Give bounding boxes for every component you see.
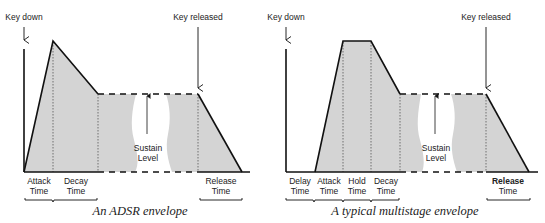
sustain-fill-right xyxy=(451,94,486,172)
time-braces xyxy=(25,198,242,202)
key-down-label: Key down xyxy=(267,12,305,22)
attack-hold-decay-fill xyxy=(315,41,400,172)
sustain-label-line1: Sustain xyxy=(134,143,163,153)
attack-label: Attack xyxy=(27,176,51,186)
svg-text:Time: Time xyxy=(348,186,367,196)
key-released-label: Key released xyxy=(461,12,511,22)
attack-label: Attack xyxy=(317,176,341,186)
release-label: Release xyxy=(205,176,236,186)
adsr-caption: An ADSR envelope xyxy=(92,204,188,218)
decay-label: Decay xyxy=(374,176,399,186)
sustain-label-line1: Sustain xyxy=(422,143,451,153)
sustain-fill-right xyxy=(166,94,198,172)
attack-decay-fill xyxy=(24,41,98,172)
release-label: Release xyxy=(492,176,524,186)
sustain-fill-left xyxy=(400,94,424,172)
decay-label: Decay xyxy=(64,176,89,186)
multistage-caption: A typical multistage envelope xyxy=(330,204,479,218)
svg-text:Time: Time xyxy=(320,186,339,196)
svg-text:Time: Time xyxy=(377,186,396,196)
hold-label: Hold xyxy=(348,176,366,186)
adsr-envelope-diagram: Sustain Level Key down Key released Atta… xyxy=(5,12,250,218)
svg-text:Time: Time xyxy=(30,186,49,196)
key-down-label: Key down xyxy=(5,12,43,22)
key-released-label: Key released xyxy=(173,12,223,22)
envelope-diagrams: Sustain Level Key down Key released Atta… xyxy=(0,0,545,223)
sustain-label-line2: Level xyxy=(138,153,158,163)
svg-text:Time: Time xyxy=(499,186,518,196)
multistage-envelope-diagram: Sustain Level Key down Key released Dela… xyxy=(267,12,538,218)
time-braces xyxy=(286,198,530,202)
svg-text:Time: Time xyxy=(291,186,310,196)
svg-text:Time: Time xyxy=(67,186,86,196)
sustain-fill-left xyxy=(98,94,138,172)
sustain-label-line2: Level xyxy=(426,153,446,163)
delay-label: Delay xyxy=(289,176,311,186)
svg-text:Time: Time xyxy=(212,186,231,196)
